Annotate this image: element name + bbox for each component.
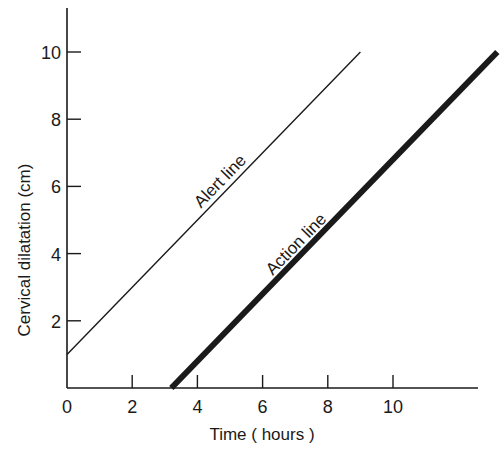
alert-line-label: Alert line: [190, 151, 250, 212]
partogram-chart: 0246810 246810 Alert line Action line Ti…: [0, 0, 501, 455]
y-tick-label: 10: [41, 43, 61, 63]
y-tick-label: 2: [51, 312, 61, 332]
y-axis-title: Cervical dilatation (cm): [15, 164, 34, 337]
x-tick-label: 8: [323, 397, 333, 417]
action-line-label: Action line: [262, 209, 330, 278]
x-tick-label: 2: [127, 397, 137, 417]
x-tick-label: 0: [62, 397, 72, 417]
axes: [67, 8, 478, 388]
x-axis-ticks: 0246810: [62, 375, 403, 417]
alert-line: [67, 52, 360, 354]
x-axis-title: Time ( hours ): [209, 425, 314, 444]
y-tick-label: 8: [51, 110, 61, 130]
x-tick-label: 6: [258, 397, 268, 417]
x-tick-label: 10: [383, 397, 403, 417]
y-axis-ticks: 246810: [41, 43, 81, 332]
y-tick-label: 6: [51, 177, 61, 197]
x-tick-label: 4: [192, 397, 202, 417]
y-tick-label: 4: [51, 245, 61, 265]
action-line: [171, 52, 497, 388]
